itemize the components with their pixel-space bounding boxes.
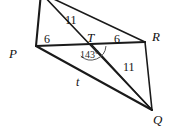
length-label-upper: 11 — [65, 14, 77, 26]
vertex-label-r: R — [152, 30, 160, 43]
vertex-label-p: P — [9, 47, 17, 60]
edge-t-to-q — [91, 44, 152, 110]
length-label-pt: 6 — [44, 33, 50, 45]
length-label-tr: 6 — [114, 33, 120, 45]
angle-label-ptq: 143° — [80, 50, 99, 60]
vertex-label-t: T — [87, 31, 94, 44]
figure-canvas — [0, 0, 173, 137]
edge-apex-to-p — [36, 0, 41, 46]
geometry-figure: PRQT 661111t 143° — [0, 0, 173, 137]
side-label-t: t — [76, 76, 79, 88]
edge-r-to-q — [145, 42, 152, 110]
vertex-label-q: Q — [153, 113, 162, 126]
length-label-tq: 11 — [123, 61, 135, 73]
